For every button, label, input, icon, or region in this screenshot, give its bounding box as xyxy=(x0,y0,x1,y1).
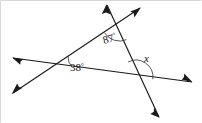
angle-label-38-degree: ° xyxy=(81,62,84,70)
arrowhead-left-lower-icon xyxy=(12,83,23,94)
arrowhead-upper-right-icon xyxy=(130,7,141,17)
angle-diagram-figure: 87° 38° x xyxy=(0,0,202,123)
angle-label-38: 38° xyxy=(70,61,84,73)
angle-label-x: x xyxy=(143,52,149,64)
geometry-canvas: 87° 38° x xyxy=(0,0,202,123)
arrowhead-upper-left-icon xyxy=(102,4,111,14)
line-left-to-right-ray xyxy=(13,58,192,82)
line-top-to-right-ray xyxy=(107,5,159,117)
angle-label-87: 87° xyxy=(101,31,118,46)
angle-label-38-value: 38 xyxy=(70,61,82,73)
line-left-to-top-ray xyxy=(13,8,140,93)
